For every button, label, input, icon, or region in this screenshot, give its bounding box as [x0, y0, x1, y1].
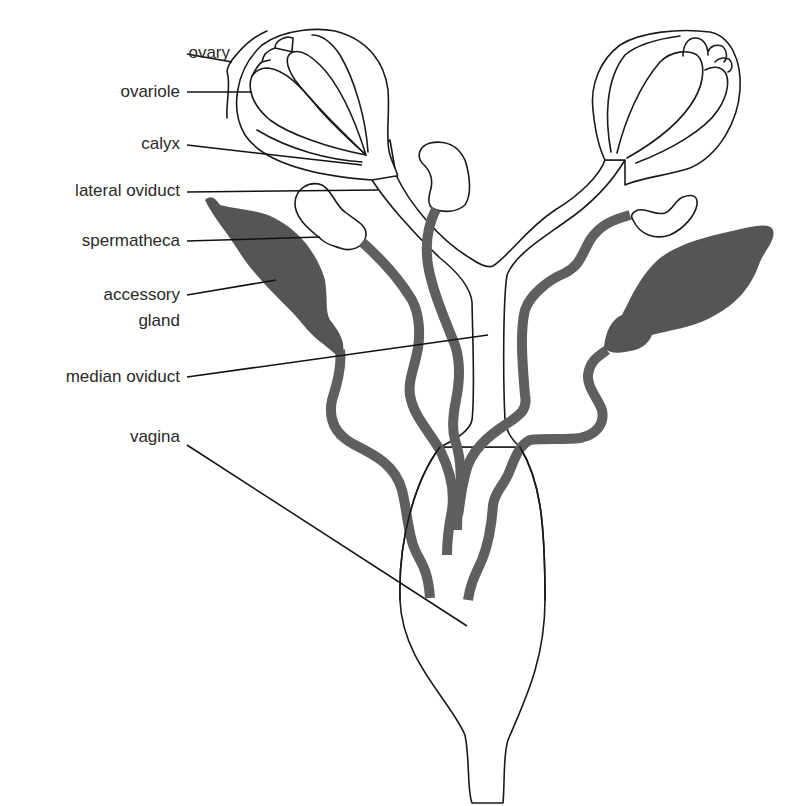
left-spermatheca: [295, 184, 366, 250]
right-spermatheca: [632, 196, 697, 237]
label-vagina: vagina: [130, 427, 180, 447]
right-accessory-gland: [604, 226, 774, 353]
label-accessory-gland-line2: gland: [138, 311, 180, 331]
center-spermatheca: [419, 142, 469, 211]
label-calyx: calyx: [141, 134, 180, 154]
reproductive-system-diagram: [0, 0, 800, 806]
oviduct-shape: [350, 140, 625, 447]
label-spermatheca: spermatheca: [82, 231, 180, 251]
label-ovariole: ovariole: [120, 82, 180, 102]
vagina-shape: [400, 447, 545, 803]
label-accessory-gland-line1: accessory: [103, 285, 180, 305]
label-ovary: ovary: [188, 43, 230, 63]
label-lateral-oviduct: lateral oviduct: [75, 181, 180, 201]
label-median-oviduct: median oviduct: [66, 367, 180, 387]
